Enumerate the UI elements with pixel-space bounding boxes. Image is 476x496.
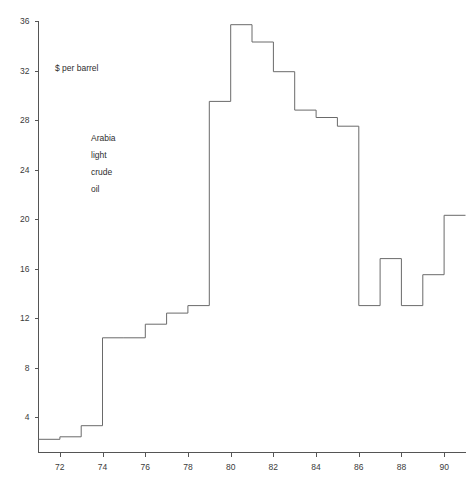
y-tick-label: 4 [25, 412, 30, 422]
x-tick-label: 76 [141, 462, 151, 472]
x-axis-group: 72747678808284868890 [39, 453, 466, 472]
x-tick-label: 86 [354, 462, 364, 472]
x-tick-label: 82 [269, 462, 279, 472]
y-tick-label: 12 [20, 313, 30, 323]
y-tick-label: 28 [20, 115, 30, 125]
x-tick-label: 84 [311, 462, 321, 472]
y-tick-label: 20 [20, 214, 30, 224]
series-label-line-2: light [91, 150, 107, 160]
series-label-line-1: Arabia [91, 133, 116, 143]
y-tick-label: 24 [20, 165, 30, 175]
x-tick-label: 72 [55, 462, 65, 472]
y-tick-label: 8 [25, 363, 30, 373]
series-label-line-4: oil [91, 184, 100, 194]
x-tick-label: 88 [397, 462, 407, 472]
y-tick-label: 16 [20, 264, 30, 274]
x-tick-label: 74 [98, 462, 108, 472]
y-axis-group: 4812162024283236 [20, 16, 38, 453]
x-tick-group: 72747678808284868890 [55, 453, 449, 472]
crude-oil-price-step-line [39, 25, 466, 440]
chart-container: 4812162024283236 72747678808284868890 $ … [0, 0, 476, 496]
x-tick-label: 80 [226, 462, 236, 472]
x-tick-label: 78 [183, 462, 193, 472]
y-tick-group: 4812162024283236 [20, 16, 38, 422]
oil-price-step-chart: 4812162024283236 72747678808284868890 $ … [0, 0, 476, 496]
y-tick-label: 36 [20, 16, 30, 26]
series-label-line-3: crude [91, 167, 113, 177]
x-tick-label: 90 [439, 462, 449, 472]
unit-label: $ per barrel [55, 63, 99, 73]
y-tick-label: 32 [20, 66, 30, 76]
